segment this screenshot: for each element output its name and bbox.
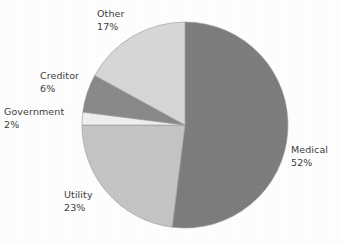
pie-slice-medical[interactable] xyxy=(172,22,288,228)
pie-label-creditor: Creditor 6% xyxy=(40,70,79,95)
pie-label-other: Other 17% xyxy=(97,8,124,33)
pie-label-medical-percent: 52% xyxy=(291,157,328,170)
pie-label-utility-percent: 23% xyxy=(64,202,93,215)
pie-label-creditor-name: Creditor xyxy=(40,70,79,83)
pie-label-other-name: Other xyxy=(97,8,124,21)
pie-label-utility: Utility 23% xyxy=(64,189,93,214)
pie-chart: Other 17% Creditor 6% Government 2% Util… xyxy=(0,0,342,243)
pie-slices xyxy=(82,22,288,228)
pie-slice-utility[interactable] xyxy=(82,125,185,227)
pie-label-government: Government 2% xyxy=(4,106,64,131)
pie-label-medical-name: Medical xyxy=(291,144,328,157)
pie-label-government-name: Government xyxy=(4,106,64,119)
pie-label-medical: Medical 52% xyxy=(291,144,328,169)
pie-label-other-percent: 17% xyxy=(97,21,124,34)
pie-label-government-percent: 2% xyxy=(4,119,64,132)
pie-label-utility-name: Utility xyxy=(64,189,93,202)
pie-label-creditor-percent: 6% xyxy=(40,83,79,96)
